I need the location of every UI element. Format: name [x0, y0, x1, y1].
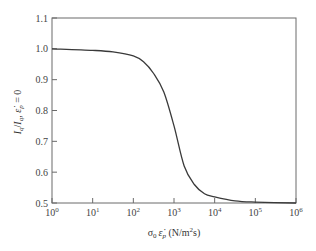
y-axis-label: Iq/Iq, ε̇p = 0: [12, 90, 25, 136]
plot-frame: [52, 18, 296, 203]
y-tick-label: 1.0: [36, 43, 49, 54]
y-tick-label: 0.6: [36, 167, 49, 178]
chart: 0.50.60.70.80.91.01.1 100101102103104105…: [0, 0, 316, 251]
y-tick-label: 0.9: [36, 74, 49, 85]
y-tick-label: 0.8: [36, 105, 49, 116]
x-axis-label: σ0ε̇p (N/m2s): [148, 226, 201, 240]
data-curve: [52, 49, 296, 203]
x-tick-label: 102: [127, 206, 141, 218]
x-axis-ticks: 100101102103104105106: [45, 198, 303, 218]
x-tick-label: 104: [208, 206, 222, 218]
x-tick-label: 106: [289, 206, 303, 218]
x-tick-label: 101: [86, 206, 100, 218]
y-axis-ticks: 0.50.60.70.80.91.01.1: [36, 13, 58, 209]
x-tick-label: 100: [45, 206, 59, 218]
x-tick-label: 103: [167, 206, 181, 218]
x-tick-label: 105: [249, 206, 263, 218]
y-tick-label: 0.7: [36, 136, 49, 147]
y-tick-label: 1.1: [36, 13, 49, 24]
